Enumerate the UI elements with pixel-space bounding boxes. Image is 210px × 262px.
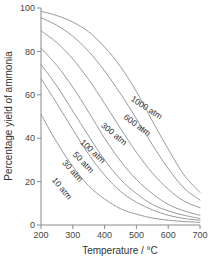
y-tick-label-0: 0 — [30, 220, 35, 230]
x-tick-label-200: 200 — [33, 230, 48, 240]
y-tick-label-100: 100 — [20, 3, 35, 13]
y-axis-title: Percentage yield of ammonia — [3, 51, 14, 181]
x-axis-title: Temperature / °C — [82, 245, 158, 256]
y-tick-label-80: 80 — [25, 47, 35, 57]
series-labels-group: 1000 atm600 atm300 atm100 atm50 atm30 at… — [50, 94, 164, 202]
curve-300-atm — [41, 31, 200, 208]
x-axis-group: 200 300 400 500 600 700 Temperature / °C — [33, 225, 207, 256]
x-tick-label-700: 700 — [192, 230, 207, 240]
curve-label-300-atm: 300 atm — [99, 120, 129, 147]
curve-label-600-atm: 600 atm — [122, 112, 153, 138]
curve-600-atm — [41, 18, 200, 200]
curve-label-10-atm: 10 atm — [50, 175, 74, 201]
y-tick-label-40: 40 — [25, 133, 35, 143]
x-tick-label-500: 500 — [129, 230, 144, 240]
x-tick-label-600: 600 — [161, 230, 176, 240]
x-tick-label-300: 300 — [65, 230, 80, 240]
y-tick-label-20: 20 — [25, 177, 35, 187]
x-tick-label-400: 400 — [97, 230, 112, 240]
y-axis-group: 0 20 40 60 80 100 Percentage yield of am… — [3, 3, 41, 230]
y-tick-label-60: 60 — [25, 90, 35, 100]
ammonia-yield-chart: 0 20 40 60 80 100 Percentage yield of am… — [0, 0, 210, 262]
chart-plot-area: 0 20 40 60 80 100 Percentage yield of am… — [0, 0, 210, 262]
